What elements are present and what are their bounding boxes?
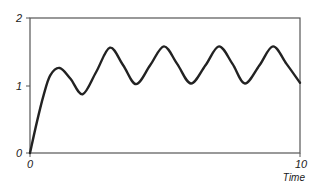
y-tick-label-1: 1 xyxy=(16,80,22,92)
plot-frame xyxy=(30,18,300,153)
series-line-response xyxy=(30,46,300,153)
x-axis-title: Time xyxy=(283,172,306,183)
y-tick-label-0: 0 xyxy=(16,147,23,159)
x-tick-label-0: 0 xyxy=(27,158,34,170)
line-chart: 2 1 0 0 10 Time xyxy=(0,0,321,192)
x-tick-label-10: 10 xyxy=(295,158,308,170)
y-tick-label-2: 2 xyxy=(15,12,22,24)
